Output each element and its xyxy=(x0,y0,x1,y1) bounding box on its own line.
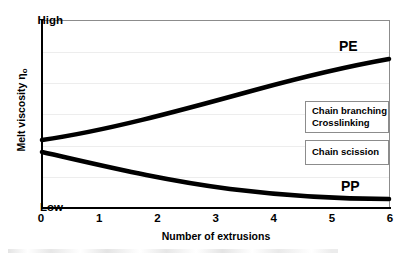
y-axis-high-label: High xyxy=(37,14,63,26)
annotation-line: Chain scission xyxy=(312,146,383,158)
gridline xyxy=(42,177,389,178)
x-tick-label: 3 xyxy=(204,212,228,224)
x-tick-label: 5 xyxy=(320,212,344,224)
series-label-pe: PE xyxy=(339,38,358,54)
series-label-pp: PP xyxy=(341,178,360,194)
x-tick-label: 6 xyxy=(378,212,402,224)
cropped-caption-sliver xyxy=(8,249,338,253)
y-axis-title: Melt viscosity ηo xyxy=(15,62,27,158)
melt-viscosity-chart: High Low Melt viscosity ηo 0 1 2 3 4 5 6… xyxy=(0,0,410,258)
y-axis-line xyxy=(41,20,43,209)
x-tick-label: 4 xyxy=(262,212,286,224)
y-axis-title-text: Melt viscosity η xyxy=(15,73,27,151)
x-axis-line xyxy=(41,207,391,209)
annotation-line: Crosslinking xyxy=(312,117,383,129)
gridline xyxy=(42,52,389,53)
annotation-chain-branching: Chain branching Crosslinking xyxy=(305,101,389,133)
y-axis-title-subscript: o xyxy=(20,68,29,73)
gridline xyxy=(42,83,389,84)
x-tick-label: 0 xyxy=(29,212,53,224)
x-tick-label: 1 xyxy=(87,212,111,224)
annotation-chain-scission: Chain scission xyxy=(305,140,389,165)
x-tick-label: 2 xyxy=(145,212,169,224)
annotation-line: Chain branching xyxy=(312,105,383,117)
x-axis-title: Number of extrusions xyxy=(41,230,391,242)
x-axis-tick-labels: 0 1 2 3 4 5 6 xyxy=(41,212,391,228)
